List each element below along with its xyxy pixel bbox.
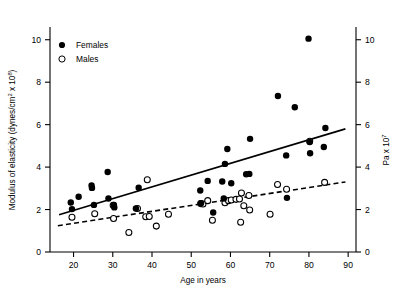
data-point-female — [228, 180, 234, 186]
data-point-female — [210, 209, 216, 215]
data-point-female — [322, 125, 328, 131]
y2-axis-label: Pa x 107 — [381, 135, 391, 166]
data-point-male — [238, 219, 244, 225]
data-point-female — [305, 35, 311, 41]
y-tick-label: 0 — [36, 247, 41, 257]
data-point-female — [197, 187, 203, 193]
y-tick-label: 2 — [36, 205, 41, 215]
y2-tick-label: 0 — [365, 247, 370, 257]
scatter-chart-figure: 2030405060708090 0246810 0246810 Age in … — [0, 0, 400, 305]
data-point-female — [75, 194, 81, 200]
data-point-female — [105, 195, 111, 201]
y2-axis-tick-labels: 0246810 — [365, 35, 375, 257]
data-point-male — [69, 214, 75, 220]
data-point-male — [236, 196, 242, 202]
x-tick-label: 80 — [304, 260, 314, 270]
legend-label-males: Males — [76, 54, 98, 64]
data-point-female — [69, 206, 75, 212]
y-axis-tick-labels: 0246810 — [31, 35, 41, 257]
data-point-male — [146, 214, 152, 220]
data-point-female — [133, 205, 139, 211]
data-point-female — [284, 195, 290, 201]
legend-label-females: Females — [76, 40, 108, 50]
y2-tick-label: 2 — [365, 205, 370, 215]
y2-tick-label: 6 — [365, 120, 370, 130]
y-tick-label: 10 — [31, 35, 41, 45]
data-point-female — [91, 202, 97, 208]
y2-tick-label: 4 — [365, 162, 370, 172]
legend-marker-females — [59, 42, 65, 48]
legend: Females Males — [59, 40, 108, 64]
y2-tick-label: 8 — [365, 77, 370, 87]
data-point-female — [104, 169, 110, 175]
data-point-male — [165, 211, 171, 217]
data-point-male — [275, 182, 281, 188]
data-point-female — [283, 152, 289, 158]
data-point-male — [205, 198, 211, 204]
trend-lines — [58, 129, 346, 226]
data-point-male — [246, 193, 252, 199]
data-point-female — [135, 184, 141, 190]
legend-marker-males — [59, 56, 65, 62]
data-point-male — [209, 217, 215, 223]
data-point-male — [241, 203, 247, 209]
data-point-female — [321, 144, 327, 150]
y2-tick-label: 10 — [365, 35, 375, 45]
data-point-female — [224, 146, 230, 152]
y2-axis-ticks — [356, 40, 361, 252]
data-point-male — [238, 190, 244, 196]
x-tick-label: 20 — [69, 260, 79, 270]
data-point-male — [144, 177, 150, 183]
data-point-female — [222, 161, 228, 167]
data-point-female — [307, 139, 313, 145]
x-axis-label: Age in years — [180, 276, 226, 285]
y-axis-label: Modulus of elasticity (dynes/cm2 x 108) — [7, 69, 17, 210]
x-tick-label: 70 — [265, 260, 275, 270]
x-axis-ticks — [74, 252, 349, 257]
y-tick-label: 6 — [36, 120, 41, 130]
data-point-male — [111, 215, 117, 221]
data-point-female — [205, 178, 211, 184]
data-point-female — [198, 200, 204, 206]
data-point-male — [247, 207, 253, 213]
data-point-male — [126, 229, 132, 235]
chart-canvas: 2030405060708090 0246810 0246810 Age in … — [0, 0, 400, 305]
data-point-male — [92, 211, 98, 217]
data-point-male — [322, 179, 328, 185]
x-tick-label: 40 — [147, 260, 157, 270]
y-axis-ticks — [45, 40, 50, 252]
data-point-female — [68, 199, 74, 205]
data-point-male — [153, 223, 159, 229]
data-point-female — [292, 104, 298, 110]
data-point-female — [247, 136, 253, 142]
x-tick-label: 50 — [186, 260, 196, 270]
x-tick-label: 30 — [108, 260, 118, 270]
y-tick-label: 4 — [36, 162, 41, 172]
x-tick-label: 60 — [226, 260, 236, 270]
data-point-male — [284, 186, 290, 192]
x-tick-label: 90 — [343, 260, 353, 270]
data-point-female — [307, 150, 313, 156]
data-point-male — [267, 211, 273, 217]
y-tick-label: 8 — [36, 77, 41, 87]
data-point-female — [89, 185, 95, 191]
data-point-female — [111, 204, 117, 210]
data-point-female — [219, 178, 225, 184]
data-point-female — [275, 93, 281, 99]
data-point-female — [221, 195, 227, 201]
data-points-males — [69, 138, 328, 235]
data-point-female — [246, 171, 252, 177]
x-axis-tick-labels: 2030405060708090 — [69, 260, 353, 270]
